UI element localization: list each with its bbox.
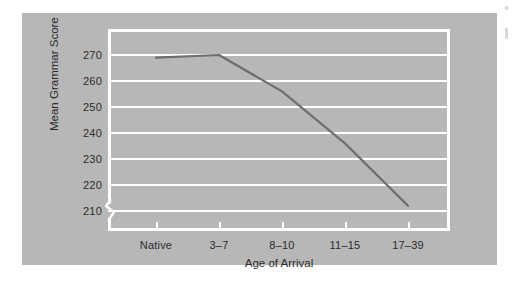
- x-tick-label: 17–39: [392, 239, 424, 251]
- plot-area: 210220230240250260270 Native3–78–1011–15…: [108, 29, 450, 231]
- x-tick-label: 11–15: [330, 239, 361, 251]
- y-tick-label: 230: [83, 153, 102, 165]
- y-tick-label: 270: [83, 49, 102, 61]
- figure: Mean Grammar Score 210220230240250260270…: [0, 0, 521, 281]
- scan-artifact-middle: [505, 28, 508, 39]
- y-axis-title: Mean Grammar Score: [48, 17, 60, 131]
- y-tick-label: 220: [83, 179, 102, 191]
- y-tick-label: 250: [83, 101, 102, 113]
- x-tick-label: 3–7: [210, 239, 229, 251]
- x-tick-label: Native: [140, 239, 172, 251]
- x-axis-title: Age of Arrival: [245, 257, 313, 269]
- y-axis-break-icon: [103, 199, 119, 221]
- y-tick-label: 260: [83, 75, 102, 87]
- x-tick-label: 8–10: [269, 239, 294, 251]
- data-series-line: [108, 29, 450, 231]
- y-tick-label: 210: [83, 205, 102, 217]
- y-tick-label: 240: [83, 127, 102, 139]
- scan-artifact-top: [505, 6, 508, 10]
- chart-panel: Mean Grammar Score 210220230240250260270…: [22, 13, 497, 265]
